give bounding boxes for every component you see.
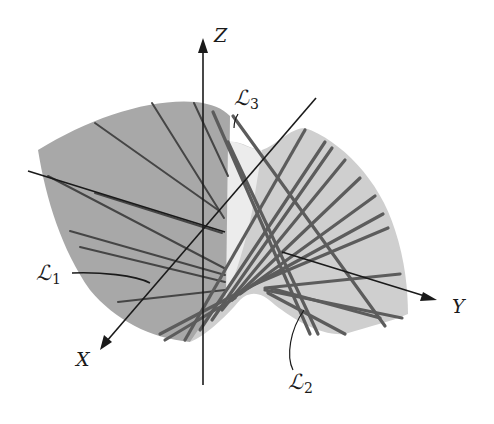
annotation-l1: ℒ1 (36, 263, 61, 286)
annotation-l3-subscript: 3 (250, 96, 259, 112)
annotation-l1-script: ℒ (36, 261, 51, 285)
z-axis-label: Z (214, 26, 227, 45)
annotation-l2-subscript: 2 (304, 380, 313, 396)
y-axis-label: Y (452, 297, 465, 316)
y-arrowhead (420, 292, 437, 301)
annotation-l3-script: ℒ (234, 86, 249, 110)
x-axis-label: X (76, 350, 90, 369)
annotation-l2-script: ℒ (288, 370, 303, 394)
annotation-l2: ℒ2 (288, 372, 313, 395)
z-arrowhead (198, 38, 208, 53)
annotation-l3: ℒ3 (234, 88, 259, 111)
annotation-l1-subscript: 1 (52, 271, 61, 287)
ruled-saddle-surface-diagram (0, 0, 494, 424)
